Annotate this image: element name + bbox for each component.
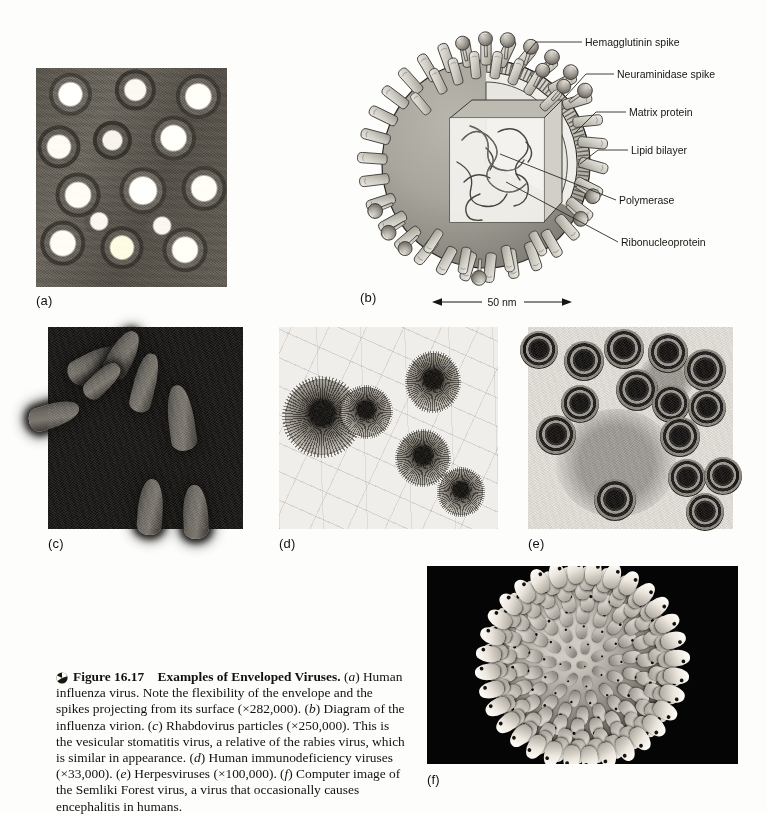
- virion-spike: [664, 649, 690, 667]
- scale-bar-label: 50 nm: [487, 296, 516, 308]
- panel-label-b: (b): [360, 290, 377, 305]
- figure-title: Examples of Enveloped Viruses.: [158, 669, 341, 684]
- micrograph-rhabdovirus: [48, 327, 243, 529]
- label-matrix-protein: Matrix protein: [629, 106, 693, 118]
- panel-b: Hemagglutinin spike Neuraminidase spike …: [330, 22, 766, 322]
- panel-label-c: (c): [48, 536, 64, 551]
- label-neuraminidase-spike: Neuraminidase spike: [617, 68, 715, 80]
- label-lipid-bilayer: Lipid bilayer: [631, 144, 688, 156]
- label-hemagglutinin-spike: Hemagglutinin spike: [585, 36, 680, 48]
- virion-spike: [576, 622, 587, 638]
- panel-label-e: (e): [528, 536, 545, 551]
- virion-spike: [557, 661, 571, 670]
- panel-label-f: (f): [427, 772, 440, 787]
- figure-caption: Figure 16.17 Examples of Enveloped Virus…: [56, 669, 408, 815]
- micrograph-influenza-virus: [36, 68, 227, 287]
- micrograph-hiv: [279, 327, 498, 529]
- virion-spike: [577, 662, 587, 669]
- scale-arrow-right: [562, 298, 572, 306]
- panel-label-a: (a): [36, 293, 53, 308]
- figure-number: Figure 16.17: [73, 669, 144, 684]
- figure-caption-body: (a) Human influenza virus. Note the flex…: [56, 669, 405, 814]
- label-polymerase: Polymerase: [619, 194, 675, 206]
- influenza-virion-diagram: Hemagglutinin spike Neuraminidase spike …: [330, 22, 766, 322]
- micrograph-herpesvirus: [528, 327, 733, 529]
- label-ribonucleoprotein: Ribonucleoprotein: [621, 236, 706, 248]
- scale-arrow-left: [432, 298, 442, 306]
- panel-label-d: (d): [279, 536, 296, 551]
- computer-image-semliki-forest-virus: [427, 566, 738, 764]
- scale-bar: 50 nm: [430, 292, 580, 312]
